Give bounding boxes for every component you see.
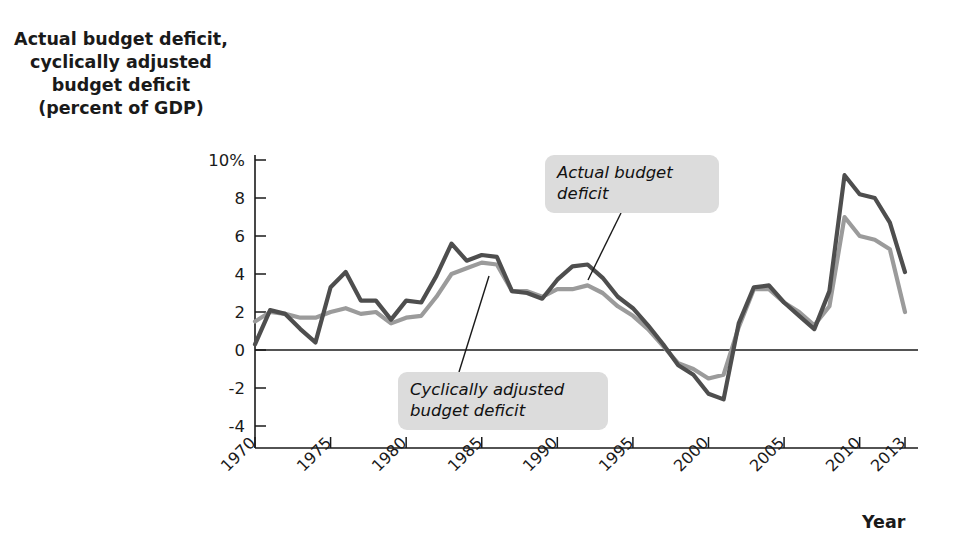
leader-line-actual <box>588 213 621 280</box>
y-tick-label: 4 <box>193 265 245 284</box>
y-tick-label: 0 <box>193 341 245 360</box>
y-tick-label: 8 <box>193 189 245 208</box>
y-axis-ticks <box>255 160 266 426</box>
y-tick-label: 2 <box>193 303 245 322</box>
y-tick-label: -2 <box>193 379 245 398</box>
y-tick-label: -4 <box>193 417 245 436</box>
leader-line-cyclical <box>459 276 489 372</box>
y-tick-label: 10% <box>193 151 245 170</box>
y-tick-label: 6 <box>193 227 245 246</box>
series-line-cyclically-adjusted <box>255 217 905 379</box>
callout-actual-budget-deficit: Actual budget deficit <box>545 155 719 213</box>
callout-leader-lines <box>459 213 621 372</box>
x-axis-ticks <box>255 437 905 448</box>
plot-area <box>0 0 957 557</box>
callout-cyclically-adjusted-budget-deficit: Cyclically adjusted budget deficit <box>398 372 608 430</box>
chart-figure: Actual budget deficit, cyclically adjust… <box>0 0 957 557</box>
